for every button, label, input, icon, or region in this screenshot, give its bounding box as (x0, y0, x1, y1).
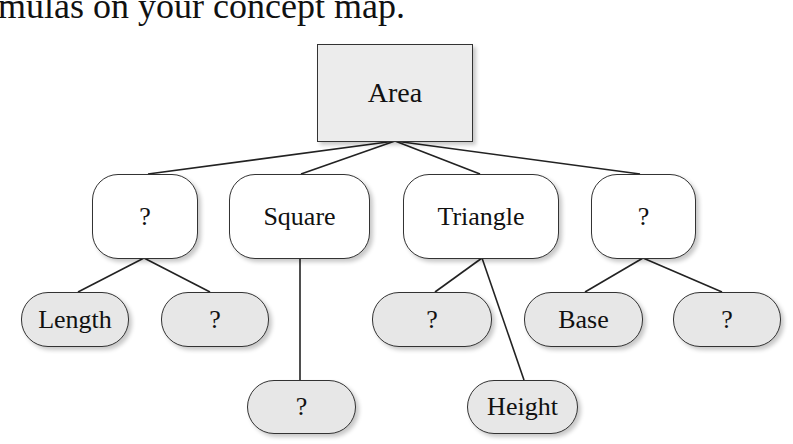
link-q1-q (144, 258, 210, 292)
node-square: Square (229, 174, 370, 259)
leaf-unknown-2: ? (673, 292, 781, 347)
link-q2-base (585, 258, 643, 292)
leaf-height: Height (467, 380, 578, 434)
link-area-q1 (148, 141, 395, 174)
link-q2-q (643, 258, 722, 292)
leaf-unknown-1: ? (161, 292, 269, 347)
leaf-length: Length (21, 292, 129, 347)
link-q1-length (78, 258, 144, 292)
link-area-square (301, 141, 395, 174)
node-unknown-shape-2: ? (591, 174, 696, 259)
leaf-triangle-unknown: ? (372, 292, 492, 347)
node-triangle: Triangle (403, 174, 559, 259)
link-triangle-q (435, 258, 482, 292)
node-area: Area (317, 44, 473, 142)
leaf-base: Base (524, 292, 643, 347)
link-area-q2 (395, 141, 640, 174)
node-unknown-shape-1: ? (92, 174, 198, 259)
leaf-square-unknown: ? (247, 380, 356, 434)
